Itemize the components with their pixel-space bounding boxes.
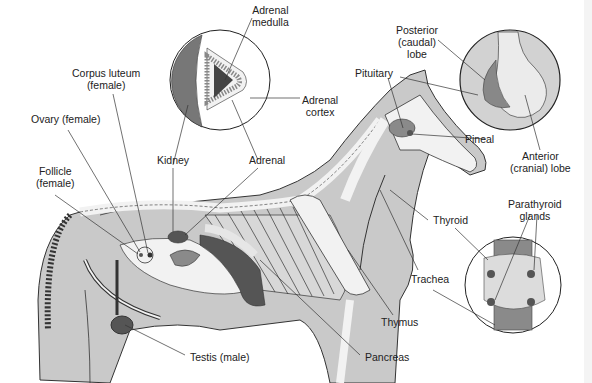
adrenal-inset	[170, 30, 270, 130]
label-ovary: Ovary (female)	[31, 113, 100, 125]
label-trachea: Trachea	[411, 273, 449, 285]
label-thymus: Thymus	[381, 316, 418, 328]
testis-organ	[111, 316, 133, 334]
label-posterior-lobe: Posterior (caudal) lobe	[396, 24, 438, 60]
parathyroid-gland-3	[487, 298, 495, 306]
parathyroid-gland-2	[527, 270, 535, 278]
parathyroid-gland-1	[487, 270, 495, 278]
label-adrenal-cortex: Adrenal cortex	[302, 94, 338, 118]
label-kidney: Kidney	[157, 154, 189, 166]
corpus-luteum-dot	[148, 253, 153, 258]
label-pancreas: Pancreas	[365, 351, 409, 363]
kidney-organ	[168, 231, 188, 243]
pineal-gland	[407, 130, 413, 136]
label-thyroid: Thyroid	[433, 214, 468, 226]
parathyroid-gland-4	[527, 298, 535, 306]
follicle-dot	[139, 253, 143, 257]
label-anterior-lobe: Anterior (cranial) lobe	[510, 150, 571, 174]
horse-endocrine-illustration	[0, 0, 592, 383]
label-adrenal-medulla: Adrenal medulla	[252, 4, 289, 28]
label-pituitary: Pituitary	[355, 67, 393, 79]
label-parathyroid: Parathyroid glands	[508, 198, 562, 222]
label-corpus-luteum: Corpus luteum (female)	[72, 67, 140, 91]
label-pineal: Pineal	[465, 133, 494, 145]
pituitary-inset	[460, 30, 560, 130]
label-testis: Testis (male)	[190, 351, 250, 363]
label-follicle: Follicle (female)	[36, 165, 75, 189]
label-adrenal: Adrenal	[249, 154, 285, 166]
